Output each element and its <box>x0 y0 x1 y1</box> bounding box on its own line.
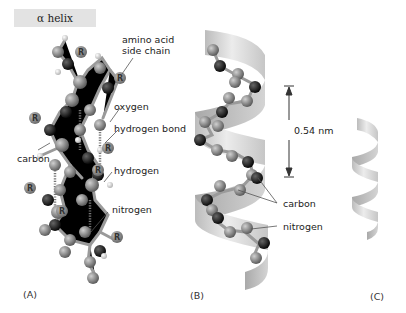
svg-text:R: R <box>117 74 123 83</box>
pitch-label: 0.54 nm <box>294 125 333 136</box>
svg-text:R: R <box>114 233 120 242</box>
panel-label-b: (B) <box>190 290 204 301</box>
label-oxygen-a: oxygen <box>114 101 149 112</box>
svg-text:R: R <box>78 48 84 57</box>
panel-a-ball-stick-model: R R R R R R R R <box>0 0 406 313</box>
panel-c-ribbon-helix <box>352 118 378 240</box>
svg-text:R: R <box>59 207 65 216</box>
label-nitrogen-b: nitrogen <box>283 221 323 232</box>
label-carbon-a: carbon <box>17 153 50 164</box>
label-nitrogen-a: nitrogen <box>112 204 152 215</box>
svg-text:R: R <box>27 184 33 193</box>
svg-text:R: R <box>32 114 38 123</box>
panel-label-a: (A) <box>23 289 37 300</box>
label-hydrogen: hydrogen <box>114 165 159 176</box>
svg-text:R: R <box>95 166 101 175</box>
label-hydrogen-bond: hydrogen bond <box>114 123 186 134</box>
svg-text:R: R <box>105 144 111 153</box>
label-side-chain: side chain <box>122 45 170 56</box>
label-carbon-b: carbon <box>283 198 316 209</box>
label-amino-acid: amino acid <box>122 34 174 45</box>
panel-label-c: (C) <box>370 291 384 302</box>
